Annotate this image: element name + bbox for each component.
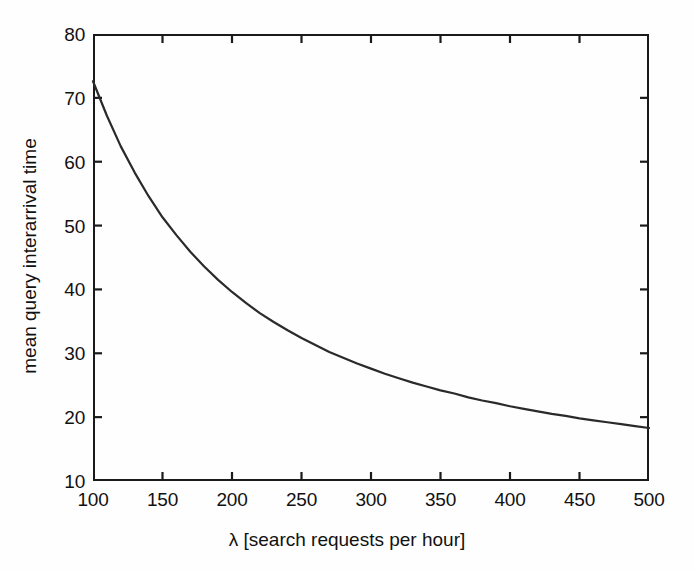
y-tick-label: 40 [64,280,85,299]
y-tick-label: 70 [64,88,85,107]
plot-axes-box [93,34,649,481]
y-tick-label: 30 [64,344,85,363]
x-tick-label: 300 [355,490,386,509]
y-tick-label: 50 [64,216,85,235]
x-tick-label: 450 [564,490,595,509]
x-tick-label: 150 [147,490,178,509]
y-axis-title-wrapper: mean query interarrival time [0,0,40,571]
x-tick-label: 350 [425,490,456,509]
x-tick-label: 400 [494,490,525,509]
y-tick-label: 10 [64,472,85,491]
y-tick-label: 60 [64,152,85,171]
y-tick-label: 80 [64,25,85,44]
x-tick-label: 250 [286,490,317,509]
x-axis-title: λ [search requests per hour] [0,529,694,551]
x-tick-label: 500 [633,490,664,509]
y-axis-title: mean query interarrival time [19,96,41,416]
y-tick-label: 20 [64,408,85,427]
x-tick-label: 100 [77,490,108,509]
figure-canvas: 1020304050607080 10015020025030035040045… [0,0,694,571]
x-tick-label: 200 [216,490,247,509]
